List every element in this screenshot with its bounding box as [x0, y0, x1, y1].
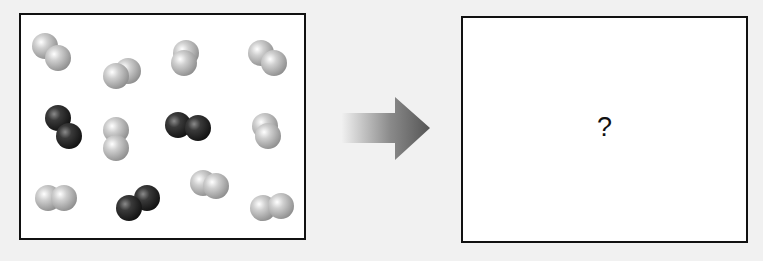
- atom: [56, 123, 82, 149]
- dark-diatomic-molecule: [116, 185, 160, 221]
- atom: [171, 50, 197, 76]
- reaction-arrow-icon: [340, 92, 435, 167]
- light-diatomic-molecule: [103, 117, 129, 161]
- atom: [261, 50, 287, 76]
- atom: [268, 193, 294, 219]
- atom: [116, 195, 142, 221]
- light-diatomic-molecule: [35, 185, 77, 211]
- atom: [255, 123, 281, 149]
- light-diatomic-molecule: [248, 40, 287, 76]
- dark-diatomic-molecule: [45, 105, 82, 149]
- dark-diatomic-molecule: [165, 112, 211, 141]
- atom: [185, 115, 211, 141]
- atom: [45, 45, 71, 71]
- light-diatomic-molecule: [252, 113, 281, 149]
- light-diatomic-molecule: [190, 170, 229, 199]
- molecule-mixture: [19, 13, 306, 240]
- products-panel: ?: [461, 16, 748, 243]
- unknown-product-label: ?: [463, 112, 746, 142]
- atom: [203, 173, 229, 199]
- light-diatomic-molecule: [250, 193, 294, 221]
- atom: [103, 63, 129, 89]
- light-diatomic-molecule: [103, 58, 141, 89]
- atom: [51, 185, 77, 211]
- light-diatomic-molecule: [32, 33, 71, 71]
- reactants-panel: [19, 13, 306, 240]
- atom: [103, 135, 129, 161]
- light-diatomic-molecule: [171, 40, 199, 76]
